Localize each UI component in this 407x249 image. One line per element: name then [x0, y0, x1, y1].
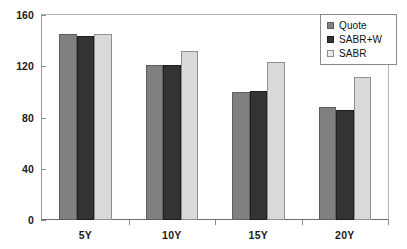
- x-axis-tick-label: 15Y: [249, 230, 268, 241]
- bar-5y-quote: [59, 34, 77, 220]
- x-axis-tick-mark: [129, 220, 130, 225]
- x-axis-tick-label: 10Y: [162, 230, 181, 241]
- y-axis-tick-label: 0: [28, 215, 34, 226]
- bar-chart: 04080120160 5Y10Y15Y20Y Quote SABR+W SAB…: [0, 0, 407, 249]
- x-axis-tick-mark: [302, 220, 303, 225]
- y-axis-tick-label: 120: [16, 61, 34, 72]
- x-axis-tick-mark: [388, 220, 389, 225]
- bar-20y-sabr: [354, 77, 372, 221]
- x-axis-tick-label: 5Y: [79, 230, 92, 241]
- bar-20y-sabr-plus-w: [336, 110, 354, 220]
- y-axis-tick-label: 40: [22, 164, 34, 175]
- legend-label-sabr: SABR: [339, 49, 367, 59]
- chart-legend: Quote SABR+W SABR: [320, 14, 397, 65]
- x-axis-tick-label: 20Y: [335, 230, 354, 241]
- y-axis-tick-label: 160: [16, 10, 34, 21]
- bar-10y-sabr-plus-w: [163, 65, 181, 220]
- bar-10y-quote: [146, 65, 164, 220]
- bar-5y-sabr: [94, 34, 112, 220]
- legend-item-quote[interactable]: Quote: [327, 19, 391, 32]
- bar-15y-sabr: [267, 62, 285, 220]
- bar-15y-sabr-plus-w: [250, 91, 268, 220]
- bar-10y-sabr: [181, 51, 199, 220]
- legend-label-quote: Quote: [339, 21, 367, 31]
- bar-15y-quote: [232, 92, 250, 220]
- bar-20y-quote: [319, 107, 337, 220]
- legend-item-sabr-w[interactable]: SABR+W: [327, 33, 391, 46]
- bar-5y-sabr-plus-w: [77, 36, 95, 221]
- legend-swatch-sabr-icon: [327, 50, 334, 57]
- y-axis-tick-mark: [41, 220, 46, 221]
- y-axis: 04080120160: [0, 0, 41, 249]
- legend-swatch-sabr-w-icon: [327, 36, 334, 43]
- legend-swatch-quote-icon: [327, 22, 334, 29]
- legend-label-sabr-w: SABR+W: [339, 35, 382, 45]
- x-axis-tick-mark: [215, 220, 216, 225]
- legend-item-sabr[interactable]: SABR: [327, 47, 391, 60]
- y-axis-tick-label: 80: [22, 112, 34, 123]
